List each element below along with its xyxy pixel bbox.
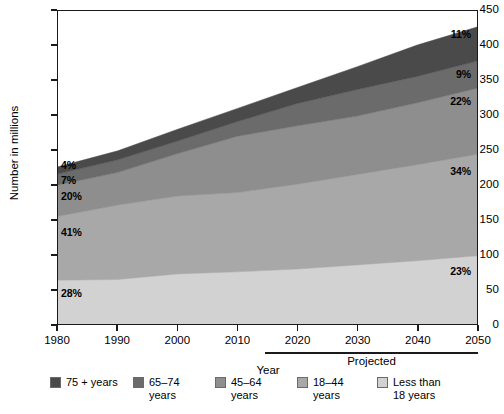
- x-tick-mark: [297, 325, 299, 331]
- legend-swatch-icon: [133, 377, 144, 388]
- percent-label: 11%: [437, 28, 471, 40]
- legend-item-3[interactable]: 18–44 years: [297, 376, 377, 401]
- x-tick-mark: [477, 325, 479, 331]
- percent-label: 41%: [61, 226, 82, 238]
- x-tick-label: 1980: [27, 334, 87, 346]
- x-tick-label: 2050: [448, 334, 504, 346]
- legend-label: 75 + years: [66, 376, 118, 389]
- x-tick-mark: [56, 325, 58, 331]
- percent-label: 34%: [437, 165, 471, 177]
- legend-label: 45–64 years: [231, 376, 262, 401]
- percent-label: 22%: [437, 95, 471, 107]
- legend-item-0[interactable]: 75 + years: [50, 376, 138, 389]
- legend-swatch-icon: [215, 377, 226, 388]
- legend-swatch-icon: [377, 377, 388, 388]
- projected-bracket: [265, 352, 478, 354]
- x-tick-mark: [417, 325, 419, 331]
- legend-item-4[interactable]: Less than 18 years: [377, 376, 472, 401]
- chart-legend: 75 + years65–74 years45–64 years18–44 ye…: [0, 376, 499, 414]
- x-axis-title: Year: [238, 364, 298, 376]
- x-tick-mark: [116, 325, 118, 331]
- legend-swatch-icon: [297, 377, 308, 388]
- x-tick-mark: [357, 325, 359, 331]
- x-tick-label: 2000: [147, 334, 207, 346]
- legend-label: 18–44 years: [313, 376, 344, 401]
- x-tick-label: 2040: [388, 334, 448, 346]
- x-tick-label: 2010: [207, 334, 267, 346]
- legend-item-2[interactable]: 45–64 years: [215, 376, 295, 401]
- y-axis-title: Number in millions: [8, 78, 20, 228]
- plot-area: [57, 10, 478, 325]
- percent-label: 28%: [61, 287, 82, 299]
- percent-label: 20%: [61, 190, 82, 202]
- legend-item-1[interactable]: 65–74 years: [133, 376, 213, 401]
- x-tick-label: 2020: [268, 334, 328, 346]
- x-tick-label: 2030: [328, 334, 388, 346]
- x-tick-label: 1990: [87, 334, 147, 346]
- legend-swatch-icon: [50, 377, 61, 388]
- x-tick-mark: [177, 325, 179, 331]
- legend-label: 65–74 years: [149, 376, 180, 401]
- stacked-area-svg: [58, 11, 477, 324]
- legend-label: Less than 18 years: [393, 376, 441, 401]
- x-tick-mark: [237, 325, 239, 331]
- percent-label: 4%: [61, 159, 76, 171]
- percent-label: 23%: [437, 265, 471, 277]
- percent-label: 7%: [61, 174, 76, 186]
- percent-label: 9%: [437, 68, 471, 80]
